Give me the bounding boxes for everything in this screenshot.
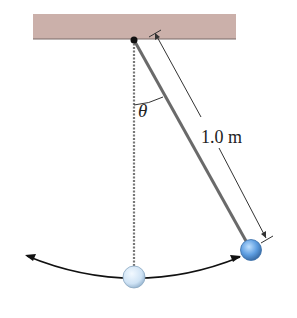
length-tick-bottom <box>261 236 273 243</box>
pivot-point <box>131 37 138 44</box>
rest-bob <box>123 266 145 288</box>
ceiling <box>33 14 236 39</box>
length-dimension-line-bottom <box>219 148 266 238</box>
length-dimension-line-top <box>155 33 201 117</box>
angle-label: θ <box>138 100 147 122</box>
displaced-bob <box>241 240 262 261</box>
left-arrowhead <box>25 254 36 261</box>
pendulum-diagram <box>0 0 297 318</box>
length-arrowhead-bottom <box>261 231 266 238</box>
length-label: 1.0 m <box>201 127 242 148</box>
